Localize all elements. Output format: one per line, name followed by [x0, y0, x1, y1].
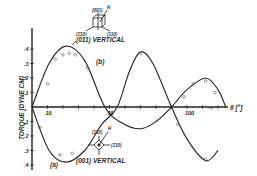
data-point: [71, 152, 74, 155]
y-tick-label: .3: [24, 148, 29, 154]
curve-b: [32, 46, 226, 129]
x-axis-arrow-icon: →: [206, 103, 214, 112]
y-tick-label: .4: [24, 162, 29, 168]
data-point: [214, 91, 217, 94]
data-point: [68, 52, 71, 55]
y-axis-label: TORQUE [DYNE CM]: [18, 75, 26, 140]
y-axis-arrow-icon: →: [18, 75, 25, 82]
data-point: [46, 83, 49, 86]
data-point: [204, 80, 207, 83]
data-point: [176, 123, 179, 126]
crystal-inset-bottom: [88, 132, 110, 155]
data-point: [59, 154, 62, 157]
data-point: [62, 54, 65, 57]
inset-bottom-label-top: (110): [92, 130, 103, 135]
data-point: [74, 54, 77, 57]
inset-bottom-label-right: (1̄10): [111, 143, 122, 148]
data-points: [38, 52, 216, 160]
crystal-inset-top: [86, 10, 110, 31]
inset-bottom-label-h: H: [108, 126, 112, 131]
series-label-a: (a): [50, 161, 58, 169]
annotation-001-vertical: (001) VERTICAL: [76, 157, 125, 165]
x-tick-label: 10: [46, 110, 52, 116]
y-tick-label: .4: [24, 46, 29, 52]
inset-top-label-001: (001): [92, 8, 103, 13]
inset-top-label-left: (1̄10): [76, 32, 87, 37]
torque-chart: .4.3.2.1.1.2.3.4 1050100 TORQUE [DYNE CM…: [0, 0, 257, 176]
data-point: [183, 96, 186, 99]
data-point: [54, 58, 57, 61]
inset-top-label-right: (110): [107, 32, 118, 37]
x-axis-label: θ [°]: [230, 104, 243, 112]
y-tick-label: .3: [24, 61, 29, 67]
series-label-b: (b): [96, 58, 104, 66]
x-tick-label: 100: [185, 110, 194, 116]
inset-top-label-h: H: [107, 5, 111, 10]
annotation-011-vertical: (011) VERTICAL: [76, 36, 125, 44]
